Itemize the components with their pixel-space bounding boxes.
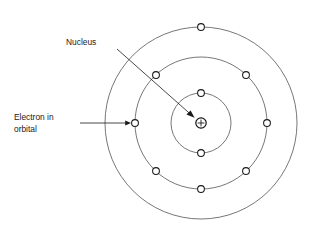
electron-arrowhead-icon [125, 120, 131, 125]
nucleus [196, 118, 206, 128]
electron-middle-lower-right [243, 168, 250, 175]
electron-leader [80, 120, 131, 125]
electron-inner-top [198, 90, 205, 97]
electron-middle-right [264, 120, 271, 127]
electron-middle-upper-right [243, 72, 250, 79]
nucleus-label: Nucleus [66, 37, 96, 47]
electron-outer-left [132, 120, 139, 127]
electron-middle-bottom [198, 186, 205, 193]
nucleus-leader-line [117, 49, 192, 116]
electron-outer-top [198, 24, 205, 31]
electron-middle-upper-left [153, 72, 160, 79]
electron-inner-bottom [198, 150, 205, 157]
atom-diagram: Nucleus Electron in orbital [0, 0, 318, 235]
electron-label-line1: Electron in [14, 112, 54, 122]
electron-label-line2: orbital [14, 124, 37, 134]
electron-middle-lower-left [153, 168, 160, 175]
